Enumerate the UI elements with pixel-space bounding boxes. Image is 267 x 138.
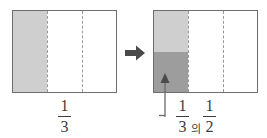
- vertical-divider-2: [223, 11, 224, 92]
- vertical-divider-2: [82, 11, 83, 92]
- fraction-one-third: 1 3: [58, 98, 71, 135]
- fraction-numerator: 1: [59, 98, 71, 115]
- fraction-numerator: 1: [204, 98, 216, 115]
- vertical-divider-1: [47, 11, 48, 92]
- one-third-label: 1 3: [12, 96, 117, 136]
- half-of-one-third-label: 1 3 의 1 2: [176, 96, 267, 136]
- shaded-third-region: [13, 11, 47, 92]
- right-arrow-icon: [124, 44, 146, 62]
- fraction-bar: [58, 116, 71, 117]
- fraction-numerator: 1: [177, 98, 189, 115]
- fraction-denominator: 3: [59, 118, 71, 135]
- label-conjunction: 의: [189, 113, 203, 136]
- horizontal-divider: [154, 52, 188, 53]
- fraction-one-half: 1 2: [203, 98, 216, 135]
- fraction-one-third: 1 3: [176, 98, 189, 135]
- fraction-denominator: 3: [177, 118, 189, 135]
- figure-canvas: 1 3 1 3 의 1: [0, 0, 267, 138]
- fraction-bar: [203, 116, 216, 117]
- fraction-bar: [176, 116, 189, 117]
- shaded-upper-half-cell: [154, 11, 188, 52]
- one-third-rectangle: [12, 10, 117, 93]
- fraction-denominator: 2: [204, 118, 216, 135]
